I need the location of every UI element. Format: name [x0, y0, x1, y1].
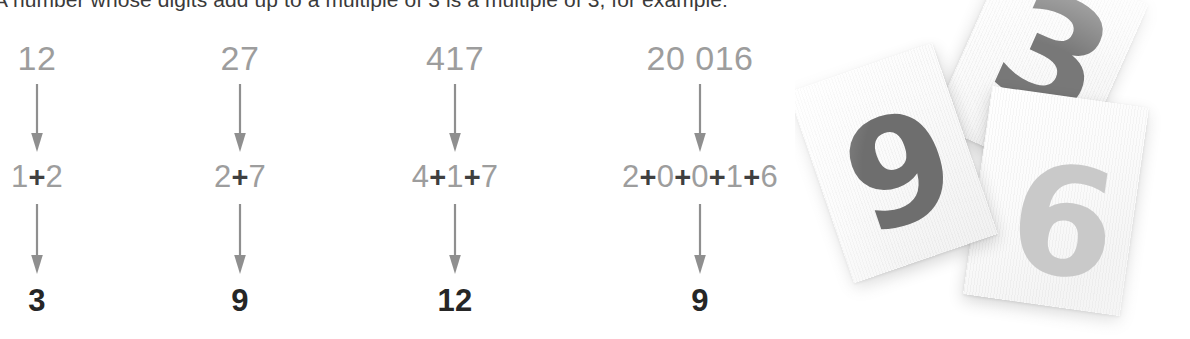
example-start-number: 417 — [340, 38, 570, 78]
number-card-6: 6 — [963, 86, 1149, 316]
example-result: 12 — [340, 282, 570, 320]
plus-icon: + — [743, 161, 760, 193]
card-digit: 6 — [1001, 141, 1125, 304]
example-result: 9 — [125, 282, 355, 320]
example-result: 9 — [585, 282, 815, 320]
worked-examples-grid: 12 1+2 3 27 2+7 — [0, 0, 800, 326]
digit: 4 — [412, 159, 429, 194]
digit: 0 — [657, 159, 674, 194]
digit: 2 — [622, 159, 639, 194]
plus-icon: + — [28, 161, 45, 193]
digit: 2 — [214, 159, 231, 194]
example-column-2: 27 2+7 9 — [125, 0, 355, 326]
digit: 7 — [249, 159, 266, 194]
plus-icon: + — [640, 161, 657, 193]
digit: 1 — [11, 159, 28, 194]
digit: 1 — [446, 159, 463, 194]
down-arrow-icon — [447, 204, 463, 274]
example-digit-sum: 2+0+0+1+6 — [585, 158, 815, 196]
down-arrow-icon — [232, 84, 248, 152]
down-arrow-icon — [692, 204, 708, 274]
down-arrow-icon — [447, 84, 463, 152]
example-start-number: 27 — [125, 38, 355, 78]
plus-icon: + — [674, 161, 691, 193]
plus-icon: + — [231, 161, 248, 193]
plus-icon: + — [709, 161, 726, 193]
digit: 0 — [691, 159, 708, 194]
down-arrow-icon — [232, 204, 248, 274]
example-column-3: 417 4+1+7 12 — [340, 0, 570, 326]
number-cards-photo: 3 6 9 — [795, 0, 1190, 339]
down-arrow-icon — [692, 84, 708, 152]
digit: 2 — [46, 159, 63, 194]
example-digit-sum: 2+7 — [125, 158, 355, 196]
down-arrow-icon — [29, 204, 45, 274]
card-digit: 9 — [827, 84, 973, 257]
plus-icon: + — [464, 161, 481, 193]
digit: 7 — [481, 159, 498, 194]
digit: 6 — [760, 159, 777, 194]
example-column-4: 20 016 2+0+0+1+6 9 — [585, 0, 815, 326]
example-digit-sum: 4+1+7 — [340, 158, 570, 196]
plus-icon: + — [429, 161, 446, 193]
digit: 1 — [726, 159, 743, 194]
example-start-number: 20 016 — [585, 38, 815, 78]
down-arrow-icon — [29, 84, 45, 152]
